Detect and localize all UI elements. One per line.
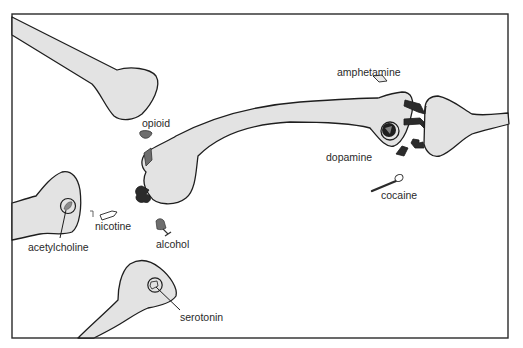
label-dopamine: dopamine — [326, 151, 372, 163]
label-alcohol: alcohol — [156, 238, 189, 250]
label-acetylcholine: acetylcholine — [28, 241, 89, 253]
serotonin-vesicle — [148, 278, 162, 292]
label-serotonin: serotonin — [180, 311, 223, 323]
label-nicotine: nicotine — [95, 220, 131, 232]
diagram-stage: opioid amphetamine dopamine cocaine nico… — [0, 0, 523, 348]
synapse-diagram: opioid amphetamine dopamine cocaine nico… — [0, 0, 523, 348]
label-amphetamine: amphetamine — [337, 66, 401, 78]
dopamine-vesicle — [381, 122, 399, 140]
label-cocaine: cocaine — [381, 189, 417, 201]
label-opioid: opioid — [142, 117, 170, 129]
acetylcholine-vesicle — [61, 199, 76, 214]
